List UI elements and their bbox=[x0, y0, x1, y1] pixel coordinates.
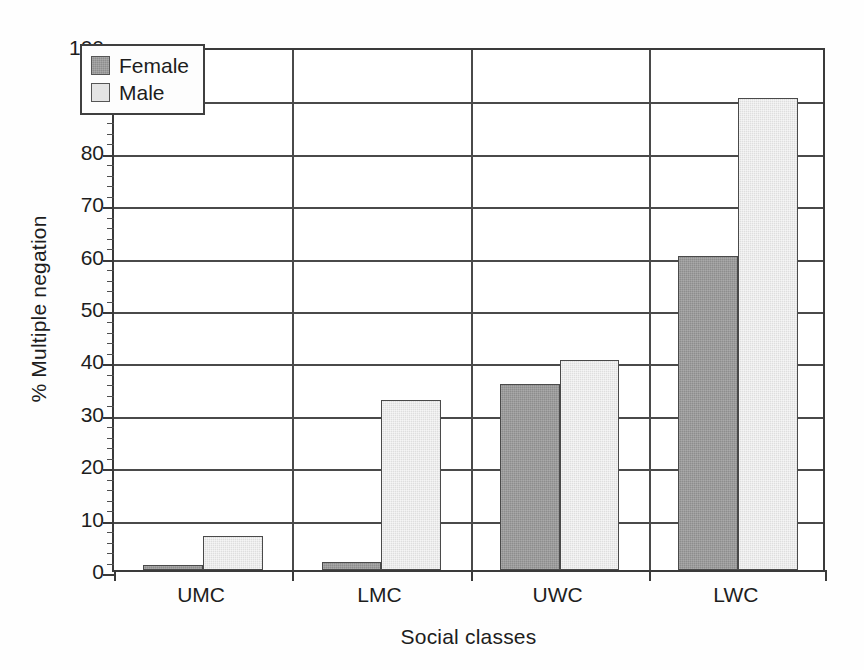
y-tick-label-60: 60 bbox=[48, 247, 104, 268]
y-tick-major-40 bbox=[103, 364, 114, 366]
y-tick-minor bbox=[107, 239, 114, 240]
x-tick bbox=[114, 570, 116, 581]
y-tick-minor bbox=[107, 228, 114, 229]
x-tick bbox=[649, 570, 651, 581]
y-tick-minor bbox=[107, 532, 114, 533]
legend-label-female: Female bbox=[119, 55, 189, 76]
y-tick-minor bbox=[107, 543, 114, 544]
legend-item-female: Female bbox=[91, 52, 189, 79]
y-tick-minor bbox=[107, 553, 114, 554]
x-tick-label-lwc: LWC bbox=[647, 583, 825, 607]
y-tick-minor bbox=[107, 480, 114, 481]
category-separator-3 bbox=[649, 50, 651, 570]
y-tick-minor bbox=[107, 490, 114, 491]
bar-chart-figure: % Multiple negation 01020304050607080901… bbox=[0, 0, 864, 670]
x-tick bbox=[292, 570, 294, 581]
y-tick-major-70 bbox=[103, 207, 114, 209]
y-tick-minor bbox=[107, 302, 114, 303]
y-tick-label-40: 40 bbox=[48, 351, 104, 372]
y-tick-minor bbox=[107, 270, 114, 271]
y-tick-minor bbox=[107, 197, 114, 198]
y-tick-major-80 bbox=[103, 155, 114, 157]
bar-uwc-male bbox=[560, 360, 620, 570]
y-tick-major-30 bbox=[103, 417, 114, 419]
category-separator-2 bbox=[471, 50, 473, 570]
y-tick-minor bbox=[107, 165, 114, 166]
y-tick-major-50 bbox=[103, 312, 114, 314]
y-tick-label-80: 80 bbox=[48, 142, 104, 163]
y-tick-major-20 bbox=[103, 469, 114, 471]
y-tick-minor bbox=[107, 396, 114, 397]
chart-legend: Female Male bbox=[80, 44, 205, 115]
x-tick bbox=[471, 570, 473, 581]
y-tick-minor bbox=[107, 459, 114, 460]
y-tick-minor bbox=[107, 123, 114, 124]
y-tick-major-60 bbox=[103, 260, 114, 262]
gridline-y-80 bbox=[114, 155, 823, 157]
y-tick-major-10 bbox=[103, 522, 114, 524]
y-tick-minor bbox=[107, 281, 114, 282]
y-tick-minor bbox=[107, 333, 114, 334]
y-tick-minor bbox=[107, 406, 114, 407]
gridline-y-70 bbox=[114, 207, 823, 209]
y-tick-minor bbox=[107, 343, 114, 344]
y-tick-major-0 bbox=[103, 574, 114, 576]
y-tick-minor bbox=[107, 186, 114, 187]
y-tick-label-20: 20 bbox=[48, 456, 104, 477]
y-tick-minor bbox=[107, 501, 114, 502]
bar-lmc-female bbox=[322, 562, 382, 570]
legend-label-male: Male bbox=[119, 82, 165, 103]
y-tick-minor bbox=[107, 448, 114, 449]
y-tick-minor bbox=[107, 427, 114, 428]
y-tick-minor bbox=[107, 291, 114, 292]
y-tick-minor bbox=[107, 218, 114, 219]
y-tick-minor bbox=[107, 354, 114, 355]
bar-uwc-female bbox=[500, 384, 560, 570]
y-tick-minor bbox=[107, 511, 114, 512]
legend-swatch-male-icon bbox=[91, 83, 110, 102]
category-separator-1 bbox=[292, 50, 294, 570]
y-tick-minor bbox=[107, 564, 114, 565]
y-tick-minor bbox=[107, 438, 114, 439]
bar-umc-female bbox=[143, 565, 203, 570]
bar-lwc-female bbox=[678, 256, 738, 570]
y-tick-label-50: 50 bbox=[48, 299, 104, 320]
y-tick-minor bbox=[107, 144, 114, 145]
y-tick-minor bbox=[107, 322, 114, 323]
y-tick-minor bbox=[107, 385, 114, 386]
legend-item-male: Male bbox=[91, 79, 189, 106]
x-tick bbox=[825, 570, 827, 581]
x-tick-label-uwc: UWC bbox=[469, 583, 647, 607]
y-tick-minor bbox=[107, 249, 114, 250]
y-tick-minor bbox=[107, 134, 114, 135]
y-tick-label-0: 0 bbox=[48, 561, 104, 582]
bar-umc-male bbox=[203, 536, 263, 570]
legend-swatch-female-icon bbox=[91, 56, 110, 75]
x-tick-label-lmc: LMC bbox=[290, 583, 468, 607]
y-tick-label-70: 70 bbox=[48, 194, 104, 215]
x-tick-label-umc: UMC bbox=[112, 583, 290, 607]
y-tick-minor bbox=[107, 375, 114, 376]
gridline-y-90 bbox=[114, 102, 823, 104]
plot-inner bbox=[114, 50, 823, 570]
x-axis-title: Social classes bbox=[112, 625, 825, 649]
y-tick-minor bbox=[107, 176, 114, 177]
plot-area bbox=[112, 48, 825, 572]
bar-lwc-male bbox=[738, 98, 798, 570]
bar-lmc-male bbox=[381, 400, 441, 570]
y-tick-label-30: 30 bbox=[48, 404, 104, 425]
y-tick-label-10: 10 bbox=[48, 509, 104, 530]
